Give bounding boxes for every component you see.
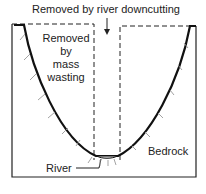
river-label: River <box>46 162 72 174</box>
mass-wasting-label-3: mass <box>40 58 92 70</box>
mass-wasting-label-2: by <box>40 45 92 57</box>
mass-wasting-label-4: wasting <box>40 71 92 83</box>
title-label: Removed by river downcutting <box>32 3 180 15</box>
mass-wasting-label-1: Removed <box>40 32 92 44</box>
bedrock-label: Bedrock <box>148 145 188 157</box>
river <box>97 156 117 158</box>
valley-diagram <box>0 0 206 194</box>
